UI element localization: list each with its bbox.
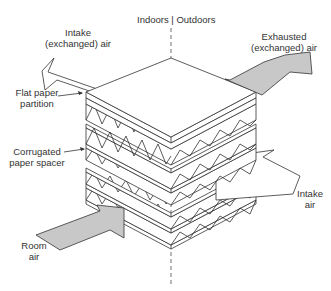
flat-paper-partition-label: Flat paper partition: [10, 87, 64, 109]
corrugated-paper-spacer-label: Corrugated paper spacer: [8, 146, 66, 168]
exhausted-air-label: Exhausted (exchanged) air: [244, 31, 324, 53]
outdoors-label: Outdoors: [176, 14, 215, 25]
indoors-label: Indoors: [137, 14, 169, 25]
intake-exchanged-air-label: Intake (exchanged) air: [38, 27, 118, 49]
intake-air-label: Intake air: [290, 188, 330, 210]
room-air-label: Room air: [14, 240, 54, 262]
divider-separator: |: [171, 14, 173, 25]
divider-label: Indoors | Outdoors: [137, 14, 216, 25]
